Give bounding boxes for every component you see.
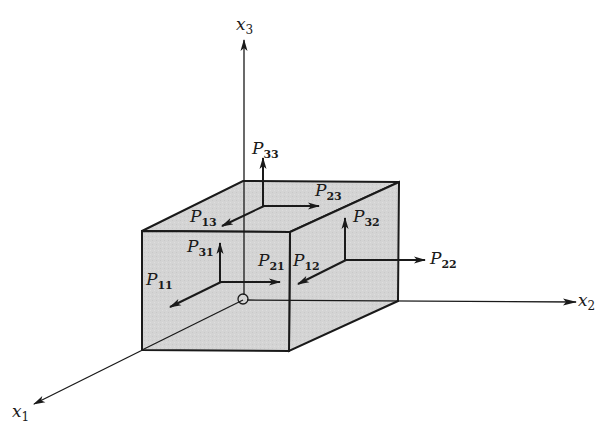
x3-axis-label: x3 [236,14,253,37]
p22-label: P22 [429,248,457,271]
p33-label: P33 [251,138,279,161]
x2-axis-label: x2 [578,290,595,313]
stress-tensor-diagram: x3 x2 x1 P33 P23 P13 P32 P31 P21 P12 P22… [0,0,609,445]
x1-axis-label: x1 [12,401,29,424]
